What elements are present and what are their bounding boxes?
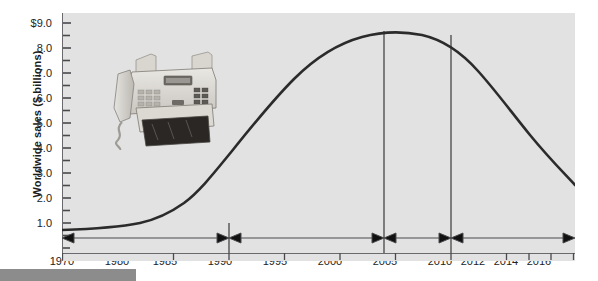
stage-divider-lines bbox=[229, 31, 451, 253]
y-minor-ticks bbox=[63, 36, 70, 249]
y-tick-label: 8.0 bbox=[0, 43, 52, 54]
y-major-ticks bbox=[63, 23, 71, 223]
x-ticks bbox=[63, 253, 574, 260]
fax-machine-illustration bbox=[96, 46, 224, 150]
stage-range-arrows bbox=[62, 233, 575, 243]
y-tick-label: 1.0 bbox=[0, 218, 52, 229]
y-tick-label: 3.0 bbox=[0, 168, 52, 179]
y-tick-label: 7.0 bbox=[0, 68, 52, 79]
y-tick-label: 5.0 bbox=[0, 118, 52, 129]
plot-area bbox=[62, 13, 575, 261]
y-tick-label: 6.0 bbox=[0, 93, 52, 104]
y-tick-label: 4.0 bbox=[0, 143, 52, 154]
chart-figure: Worldwide sales ($ billions) $9.0 8.0 7.… bbox=[0, 0, 598, 281]
y-tick-label: 2.0 bbox=[0, 193, 52, 204]
fax-machine-photo bbox=[96, 46, 224, 150]
footer-bar bbox=[0, 269, 136, 281]
y-tick-label: $9.0 bbox=[0, 18, 52, 29]
